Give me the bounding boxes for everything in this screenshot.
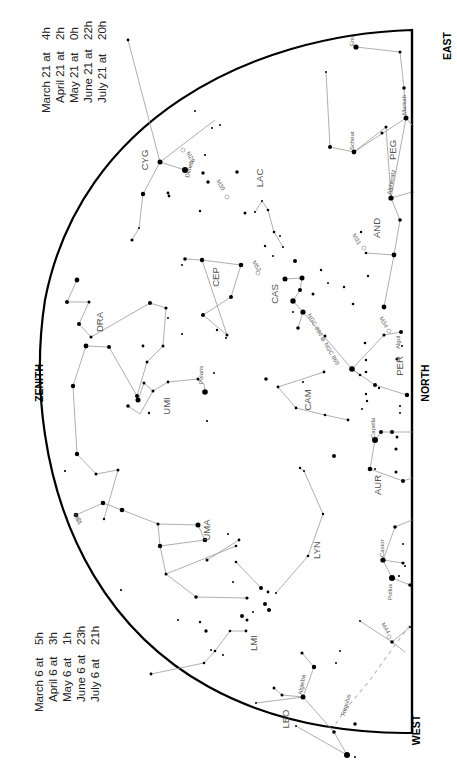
- star: [354, 756, 356, 758]
- star: [290, 298, 295, 303]
- star: [408, 583, 412, 587]
- star: [322, 513, 324, 515]
- star: [385, 126, 388, 129]
- star: [146, 361, 149, 364]
- star: [390, 430, 394, 434]
- constellation-line: [166, 546, 236, 574]
- star: [183, 257, 187, 261]
- star: [335, 662, 337, 664]
- star: [401, 561, 404, 564]
- time-hour: 3h: [47, 632, 59, 645]
- star: [267, 591, 270, 594]
- star: [199, 621, 201, 623]
- star: [299, 467, 301, 469]
- star: [210, 649, 212, 651]
- star: [303, 470, 305, 472]
- star-label-castor: Castor: [379, 539, 385, 557]
- star: [141, 192, 145, 196]
- star: [339, 650, 341, 652]
- star: [359, 620, 361, 622]
- star: [148, 301, 152, 305]
- star: [167, 317, 169, 319]
- star-label-enif: Enif: [349, 35, 355, 46]
- star-label-polaris: Polaris: [198, 366, 204, 384]
- constellation-line: [160, 546, 247, 598]
- star: [300, 309, 305, 314]
- west-label: WEST: [410, 714, 422, 745]
- constellation-label-lmi: LMI: [248, 635, 259, 651]
- star: [206, 559, 209, 562]
- star: [65, 300, 69, 304]
- star: [347, 419, 350, 422]
- constellation-label-cyg: CYG: [139, 150, 150, 171]
- star: [196, 523, 201, 528]
- star: [396, 436, 399, 439]
- star: [235, 170, 239, 174]
- star: [279, 235, 281, 237]
- star: [298, 288, 302, 292]
- time-date: June 21 at: [82, 48, 94, 103]
- dso-icon: [181, 148, 185, 152]
- star: [402, 543, 404, 545]
- constellation-line: [128, 391, 153, 414]
- star: [325, 71, 327, 73]
- star: [399, 51, 402, 54]
- star: [365, 393, 367, 395]
- star: [225, 337, 227, 339]
- star: [343, 286, 345, 288]
- time-hour: 0h: [68, 27, 80, 40]
- star-label-markab: Markab: [401, 94, 407, 115]
- star-label-algol: Algol: [395, 336, 401, 349]
- star: [194, 110, 196, 112]
- star: [283, 277, 288, 282]
- constellation-line: [391, 192, 412, 198]
- star: [281, 694, 284, 697]
- star: [126, 404, 130, 408]
- dso-label-m81: M81: [72, 513, 83, 527]
- time-hour: 2h: [54, 27, 66, 40]
- star: [229, 295, 233, 299]
- constellation-label-umi: UMI: [161, 397, 172, 414]
- zenith-label: ZENITH: [33, 364, 45, 402]
- star: [229, 630, 232, 633]
- star: [359, 374, 362, 377]
- star: [165, 573, 168, 576]
- constellation-line: [236, 562, 261, 588]
- star: [388, 195, 393, 200]
- star: [127, 39, 130, 42]
- constellation-label-lac: LAC: [254, 169, 265, 188]
- star: [292, 311, 294, 313]
- star: [88, 301, 91, 304]
- star-label-pollux: Pollux: [387, 584, 393, 600]
- star: [401, 479, 405, 483]
- time-date: March 6 at: [33, 657, 45, 712]
- star-chart: ZENITH NORTH EAST WEST March 21 at 4h Ap…: [0, 0, 457, 766]
- star: [219, 124, 221, 126]
- star: [365, 252, 368, 255]
- star: [138, 227, 140, 229]
- star: [401, 345, 403, 347]
- star: [411, 191, 414, 194]
- star: [136, 398, 141, 403]
- star: [267, 209, 270, 212]
- star: [204, 629, 207, 632]
- star: [353, 722, 357, 726]
- star: [252, 611, 254, 613]
- star: [206, 180, 209, 183]
- constellation-label-cas: CAS: [269, 284, 280, 304]
- constellation-label-per: PER: [394, 356, 405, 376]
- star: [235, 561, 238, 564]
- star: [380, 557, 385, 562]
- dso-label-ngc884-ngc869: NGC 884 ⊕ NGC 869: [306, 313, 341, 367]
- time-table-top: March 21 at 4h April 21 at 2h May 21 at …: [40, 21, 108, 113]
- star: [177, 619, 179, 621]
- star: [167, 381, 170, 384]
- star: [277, 386, 280, 389]
- star: [211, 127, 213, 129]
- star: [395, 471, 398, 474]
- star: [206, 420, 208, 422]
- star: [168, 195, 171, 198]
- star: [399, 405, 401, 407]
- time-date: May 6 at: [61, 657, 73, 702]
- star: [409, 626, 411, 628]
